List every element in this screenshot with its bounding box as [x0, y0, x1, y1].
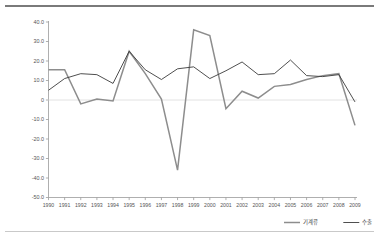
x-tick-label: 1997: [156, 202, 168, 208]
x-tick-label: 1996: [140, 202, 152, 208]
y-tick-label: 0: [41, 97, 44, 103]
y-tick-label: -20.0: [32, 136, 44, 142]
x-tick-label: 1998: [172, 202, 184, 208]
x-tick-label: 2002: [236, 202, 248, 208]
y-tick-label: -30.0: [32, 155, 44, 161]
x-tick-label: 2007: [317, 202, 329, 208]
y-tick-label: 10.0: [34, 77, 45, 83]
x-tick-label: 2006: [301, 202, 313, 208]
x-tick-label: 1991: [59, 202, 71, 208]
x-axis: 1990199119921993199419951996199719981999…: [43, 198, 361, 209]
x-tick-label: 2009: [349, 202, 361, 208]
chart-canvas: 40.030.020.010.00-10.0-20.0-30.0-40.0-50…: [0, 0, 379, 240]
x-tick-label: 1990: [43, 202, 55, 208]
legend-label-1: 기계류: [303, 218, 318, 226]
y-tick-label: 20.0: [34, 58, 45, 64]
y-tick-label: 30.0: [34, 38, 45, 44]
legend-label-2: 수출: [362, 218, 372, 226]
y-tick-label: -50.0: [32, 194, 44, 200]
y-tick-label: -40.0: [32, 175, 44, 181]
y-tick-label: 40.0: [34, 19, 45, 25]
x-tick-label: 2001: [220, 202, 232, 208]
x-tick-label: 2003: [252, 202, 264, 208]
x-tick-label: 2000: [204, 202, 216, 208]
series-line-2: [49, 51, 356, 102]
x-tick-label: 1995: [123, 202, 135, 208]
x-tick-label: 2005: [285, 202, 297, 208]
y-axis: 40.030.020.010.00-10.0-20.0-30.0-40.0-50…: [32, 19, 49, 201]
x-tick-label: 1999: [188, 202, 200, 208]
x-tick-label: 2004: [269, 202, 281, 208]
chart-legend: 기계류수출: [284, 218, 372, 226]
y-tick-label: -10.0: [32, 116, 44, 122]
x-tick-label: 2008: [333, 202, 345, 208]
x-tick-label: 1993: [91, 202, 103, 208]
chart-page: 40.030.020.010.00-10.0-20.0-30.0-40.0-50…: [0, 0, 379, 240]
line-chart: 40.030.020.010.00-10.0-20.0-30.0-40.0-50…: [0, 0, 379, 240]
x-tick-label: 1994: [107, 202, 119, 208]
x-tick-label: 1992: [75, 202, 87, 208]
